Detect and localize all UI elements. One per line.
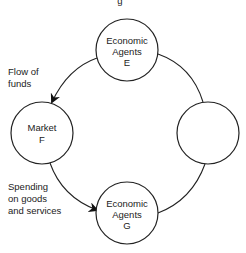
node-e-line1: Economic bbox=[106, 35, 148, 46]
edge-right-to-e bbox=[158, 54, 203, 102]
annotation-flow-of-funds: Flow of funds bbox=[8, 66, 39, 89]
flow-line2: funds bbox=[8, 78, 31, 89]
edge-g-to-right bbox=[158, 164, 205, 213]
spending-line2: on goods bbox=[8, 193, 47, 204]
node-f-line2: F bbox=[39, 134, 45, 145]
node-f-line1: Market bbox=[27, 122, 56, 133]
node-e-line3: E bbox=[124, 57, 130, 68]
flow-line1: Flow of bbox=[8, 66, 39, 77]
node-economic-agents-g: Economic Agents G bbox=[96, 182, 158, 244]
node-economic-agents-e: Economic Agents E bbox=[96, 19, 158, 81]
node-g-line3: G bbox=[123, 220, 130, 231]
cropped-title-fragment: g bbox=[117, 0, 122, 6]
spending-line3: and services bbox=[8, 205, 62, 216]
node-blank bbox=[177, 102, 239, 164]
node-market-f: Market F bbox=[11, 102, 73, 164]
node-g-line1: Economic bbox=[106, 198, 148, 209]
edge-e-to-f bbox=[52, 58, 97, 102]
circular-flow-diagram: g Economic Agents E Market F Economic Ag… bbox=[0, 0, 246, 253]
node-g-line2: Agents bbox=[112, 209, 142, 220]
annotation-spending: Spending on goods and services bbox=[8, 181, 62, 216]
node-e-line2: Agents bbox=[112, 46, 142, 57]
edge-f-to-g bbox=[50, 163, 97, 210]
spending-line1: Spending bbox=[8, 181, 48, 192]
